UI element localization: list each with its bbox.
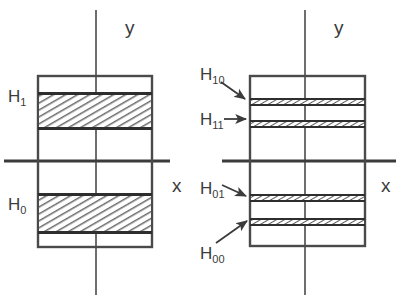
band-label-H10-sub: 10: [212, 74, 224, 86]
band-label-H11-sub: 11: [212, 119, 223, 131]
right-band-H00-fill: [251, 220, 364, 225]
band-label-H01-sub: 01: [212, 188, 224, 200]
band-label-H00-sub: 00: [212, 253, 224, 265]
band-label-H00: H00: [200, 245, 225, 262]
left-x-axis-label: x: [172, 176, 182, 195]
right-panel: [216, 10, 396, 295]
right-y-axis-label: y: [334, 18, 344, 37]
arrow-to-H00: [216, 221, 247, 243]
band-label-H01-base: H: [200, 179, 212, 198]
arrow-to-H01: [222, 185, 246, 196]
band-label-H0-base: H: [8, 195, 20, 214]
right-x-axis-label: x: [381, 176, 391, 195]
band-label-H1: H1: [8, 88, 26, 105]
band-label-H0: H0: [8, 196, 26, 213]
left-band-H0-fill: [39, 195, 151, 232]
band-label-H10-base: H: [200, 65, 212, 84]
left-y-axis-label: y: [125, 18, 135, 37]
band-label-H10: H10: [200, 66, 225, 83]
band-label-H1-base: H: [8, 87, 20, 106]
right-band-H11-fill: [251, 122, 364, 127]
left-panel: [4, 10, 170, 295]
band-label-H01: H01: [200, 180, 225, 197]
band-label-H0-sub: 0: [20, 204, 26, 216]
band-label-H00-base: H: [200, 244, 212, 263]
band-label-H11: H11: [200, 111, 224, 128]
right-band-H10-fill: [251, 100, 364, 105]
figure-canvas: y x y x H1 H0 H10 H11 H01 H00: [0, 0, 400, 304]
right-band-H01-fill: [251, 196, 364, 201]
band-label-H11-base: H: [200, 110, 212, 129]
band-label-H1-sub: 1: [20, 96, 26, 108]
left-band-H1-fill: [39, 94, 151, 128]
